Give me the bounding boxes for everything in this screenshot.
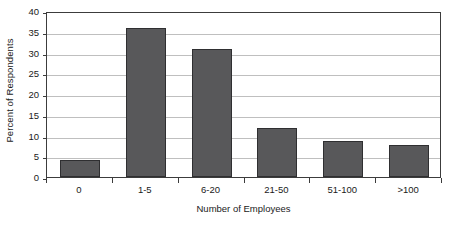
x-axis-tick-mark [112,178,113,183]
x-axis-tick-mark [46,178,47,183]
y-axis-tick-labels: 0510152025303540 [18,12,42,178]
plot-area [46,12,441,178]
bar [257,128,297,177]
x-axis-tick-mark [441,178,442,183]
y-axis-tick-label: 20 [28,90,39,100]
y-axis-tick-label: 5 [34,153,39,163]
x-axis-tick-label: 51-100 [327,185,357,195]
bar [192,49,232,177]
y-axis-tick-label: 10 [28,132,39,142]
x-axis-tick-mark [244,178,245,183]
x-axis-tick-label: 6-20 [201,185,220,195]
bar-slot [376,13,442,177]
bar-series [47,13,440,177]
x-axis-tick-mark [309,178,310,183]
x-axis-tick-label: 0 [76,185,81,195]
y-axis-title: Percent of Respondents [0,0,18,180]
x-axis-tick-mark [178,178,179,183]
y-axis-title-text: Percent of Respondents [4,38,15,142]
bar-slot [179,13,245,177]
x-axis-tick-label: >100 [397,185,418,195]
x-axis-tick-mark [375,178,376,183]
x-axis-tick-label: 1-5 [138,185,152,195]
bar [126,28,166,177]
x-axis-tick-label: 21-50 [264,185,288,195]
x-axis-title: Number of Employees [46,203,441,214]
bar-slot [310,13,376,177]
y-axis-tick-label: 25 [28,70,39,80]
y-axis-tick-label: 35 [28,28,39,38]
bar-slot [47,13,113,177]
y-axis-tick-label: 15 [28,111,39,121]
bar [60,160,100,177]
bar-chart: Percent of Respondents 0510152025303540 … [0,0,451,225]
y-axis-tick-label: 30 [28,49,39,59]
bar-slot [113,13,179,177]
bar [389,145,429,177]
bar [323,141,363,177]
y-axis-tick-label: 0 [34,173,39,183]
bar-slot [245,13,311,177]
y-axis-tick-label: 40 [28,7,39,17]
